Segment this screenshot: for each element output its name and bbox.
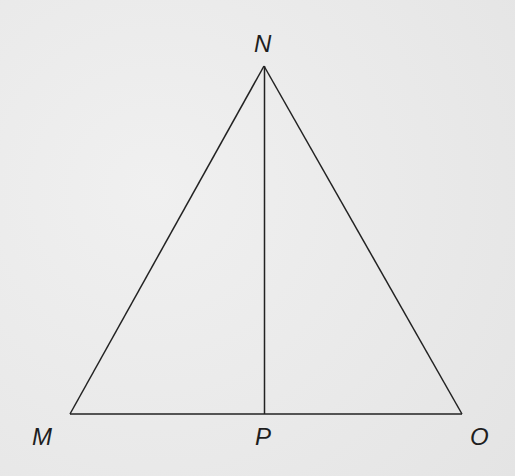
vertex-label-m: M — [32, 425, 52, 449]
vertex-label-o: O — [470, 425, 489, 449]
segment-no — [264, 66, 462, 414]
vertex-label-n: N — [254, 32, 271, 56]
triangle-figure — [0, 0, 515, 476]
vertex-label-p: P — [255, 425, 271, 449]
diagram-canvas: N M P O — [0, 0, 515, 476]
segment-mn — [70, 66, 264, 414]
